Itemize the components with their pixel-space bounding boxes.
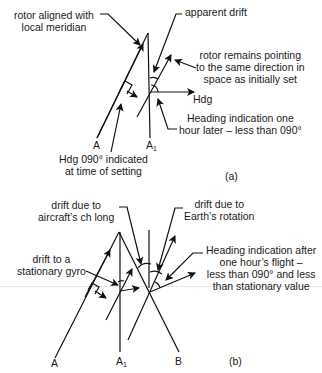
part-b-lines bbox=[55, 207, 203, 358]
label-point-a: A bbox=[93, 139, 100, 151]
label-rotor-aligned: rotor aligned with local meridian bbox=[14, 9, 94, 33]
label-apparent-drift: apparent drift bbox=[185, 6, 247, 18]
label-hdg: Hdg bbox=[193, 93, 212, 105]
label-hdg-set: Hdg 090° indicated at time of setting bbox=[59, 153, 148, 177]
label-drift-earth: drift due to Earth’s rotation bbox=[184, 198, 254, 222]
label-rotor-remains: rotor remains pointing to the same direc… bbox=[196, 49, 305, 85]
label-point-a1-b: A1 bbox=[116, 355, 127, 371]
caption-b: (b) bbox=[229, 355, 242, 367]
label-heading-later: Heading indication one hour later – less… bbox=[179, 112, 302, 136]
label-point-a-b: A bbox=[51, 357, 58, 369]
label-heading-after: Heading indication after one hour’s flig… bbox=[206, 244, 316, 292]
label-point-b: B bbox=[175, 355, 182, 367]
label-drift-aircraft: drift due to aircraft’s ch long bbox=[38, 199, 114, 223]
caption-a: (a) bbox=[225, 170, 238, 182]
label-drift-stationary: drift to a stationary gyro bbox=[17, 253, 86, 277]
